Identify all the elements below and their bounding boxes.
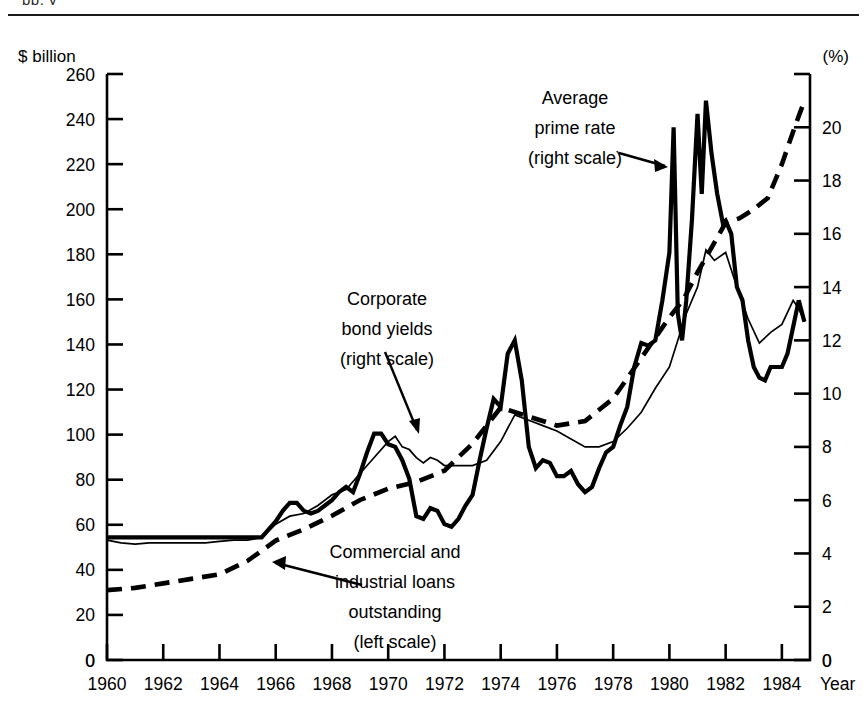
left-axis-tick-label: 240 [66, 110, 95, 130]
left-axis-tick-label: 260 [66, 65, 95, 85]
right-axis-tick-label: 18 [822, 171, 841, 191]
x-axis-tick-label: 1982 [706, 674, 745, 694]
annotation-line: bond yields [341, 319, 432, 339]
annotation-line: prime rate [534, 118, 615, 138]
x-axis-tick-label: 1976 [537, 674, 576, 694]
x-axis-tick-label: 1962 [144, 674, 183, 694]
right-axis-tick-label: 2 [822, 597, 832, 617]
annotation-ci-loans: Commercial andindustrial loansoutstandin… [272, 542, 461, 652]
right-axis-tick-label: 10 [822, 384, 842, 404]
right-axis-tick-label: 12 [822, 331, 841, 351]
annotation-arrowhead [409, 418, 420, 434]
series-line-0 [107, 101, 804, 538]
right-axis-tick-label: 16 [822, 224, 841, 244]
x-axis-tick-label: 1978 [594, 674, 633, 694]
left-axis-tick-label: 100 [66, 425, 95, 445]
series-line-1 [107, 250, 804, 544]
left-axis-tick-label: 140 [66, 335, 95, 355]
x-axis-tick-label: 1972 [425, 674, 464, 694]
right-axis-tick-label: 4 [822, 544, 832, 564]
left-axis-tick-label: 80 [76, 470, 96, 490]
right-axis-tick-label: 8 [822, 437, 832, 457]
x-axis-title: Year [820, 674, 856, 694]
chart-page: pp. y 0204060801001201401601802002202402… [0, 0, 867, 711]
left-axis-tick-label: 200 [66, 200, 95, 220]
annotation-line: outstanding [348, 602, 441, 622]
annotation-prime-rate: Averageprime rate(right scale) [528, 88, 668, 172]
right-axis-tick-label: 20 [822, 118, 842, 138]
annotation-arrowhead [272, 556, 286, 570]
annotation-line: (right scale) [528, 148, 622, 168]
left-axis-tick-label: 40 [76, 560, 96, 580]
annotation-line: Average [542, 88, 609, 108]
x-axis-tick-label: 1980 [650, 674, 689, 694]
x-axis-origin-label-left: 0 [85, 651, 95, 671]
x-axis-tick-label: 1984 [762, 674, 801, 694]
annotation-bond-yields: Corporatebond yields(right scale) [340, 289, 434, 434]
x-axis-tick-label: 1966 [256, 674, 295, 694]
right-axis-unit-label: (%) [823, 47, 849, 66]
right-axis-tick-label: 14 [822, 278, 842, 298]
left-axis-tick-label: 220 [66, 155, 95, 175]
annotation-line: (left scale) [353, 632, 436, 652]
x-axis-origin-label-right: 0 [822, 651, 832, 671]
annotation-line: Commercial and [329, 542, 460, 562]
financial-line-chart: 0204060801001201401601802002202402600246… [0, 0, 867, 711]
left-axis-tick-label: 60 [76, 515, 96, 535]
left-axis-tick-label: 20 [76, 605, 96, 625]
x-axis-tick-label: 1964 [200, 674, 239, 694]
annotation-arrowhead [654, 159, 668, 172]
left-axis-tick-label: 160 [66, 290, 95, 310]
left-axis-tick-label: 180 [66, 245, 95, 265]
x-axis-tick-label: 1974 [481, 674, 520, 694]
x-axis-tick-label: 1968 [312, 674, 351, 694]
x-axis-tick-label: 1960 [88, 674, 127, 694]
left-axis-unit-label: $ billion [18, 47, 76, 66]
right-axis-tick-label: 6 [822, 491, 832, 511]
annotation-line: Corporate [347, 289, 427, 309]
x-axis-tick-label: 1970 [369, 674, 408, 694]
left-axis-tick-label: 120 [66, 380, 95, 400]
